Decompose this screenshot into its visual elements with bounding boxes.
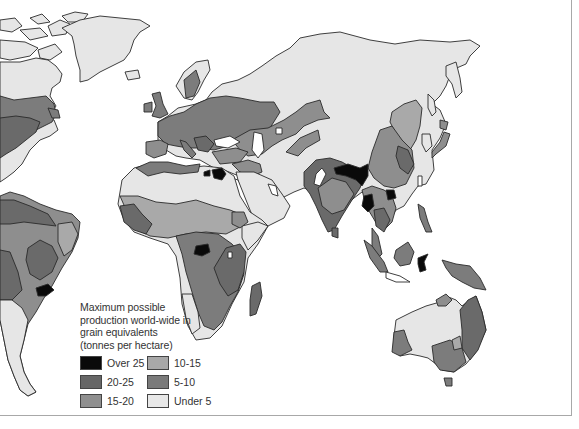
legend-swatch [80,356,102,370]
philippines [418,204,432,232]
britain [152,92,168,118]
legend-item-over-25: Over 25 [80,356,144,370]
tasmania [444,378,452,386]
legend-item-15-20: 15-20 [80,394,134,408]
iberia [146,140,168,158]
legend-label: Under 5 [174,395,211,407]
sulawesi-over25 [418,254,428,272]
legend-label: 20-25 [107,376,134,388]
lake-victoria [228,252,232,258]
java [386,272,410,282]
borneo [394,242,414,266]
ireland [144,102,152,112]
legend-title-line: production world-wide in [80,314,280,327]
aus-east [460,296,486,360]
legend-item-5-10: 5-10 [147,375,195,389]
legend-item-under-5: Under 5 [147,394,211,408]
legend-label: Over 25 [107,357,144,369]
japan-hokkaido [440,120,448,130]
legend-item-20-25: 20-25 [80,375,134,389]
taiwan [418,176,422,186]
legend-title-line: Maximum possible [80,301,280,314]
legend-title-line: (tonnes per hectare) [80,339,280,352]
iceland [125,70,140,80]
aral-sea [276,128,282,134]
legend-swatch [147,375,169,389]
legend-label: 5-10 [174,376,195,388]
legend-label: 15-20 [107,395,134,407]
map-legend: Maximum possible production world-wide i… [80,301,280,356]
new-guinea [442,260,486,290]
legend-title-line: grain equivalents [80,326,280,339]
vietnam-over25 [386,190,396,200]
legend-swatch [147,356,169,370]
legend-swatch [80,375,102,389]
legend-swatch [147,394,169,408]
sri-lanka [332,228,338,238]
legend-label: 10-15 [174,357,201,369]
legend-swatch [80,394,102,408]
legend-title: Maximum possible production world-wide i… [80,301,280,351]
legend-item-10-15: 10-15 [147,356,201,370]
